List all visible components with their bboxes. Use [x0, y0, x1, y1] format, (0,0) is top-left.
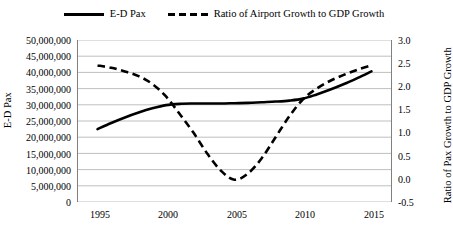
y-axis-left-tick: 15,000,000: [3, 150, 71, 160]
y-axis-right-tick: 0.5: [398, 152, 438, 162]
solid-line-icon: [64, 9, 104, 20]
y-axis-left-tick: 45,000,000: [3, 52, 71, 62]
x-axis-tick: 2015: [351, 210, 397, 220]
y-axis-left-tick: 30,000,000: [3, 101, 71, 111]
x-axis-tick: 2005: [214, 210, 260, 220]
chart-legend: E-D Pax Ratio of Airport Growth to GDP G…: [0, 4, 448, 24]
y-axis-left-tick: 40,000,000: [3, 68, 71, 78]
y-axis-right-tick: 1.0: [398, 128, 438, 138]
y-axis-right-tick: 0.0: [398, 175, 438, 185]
y-axis-right-tick: 3.0: [398, 36, 438, 46]
x-axis-tick: 1995: [77, 210, 123, 220]
y-axis-left-tick: 10,000,000: [3, 166, 71, 176]
y-axis-left-tick: 0: [3, 198, 71, 208]
legend-label-e-d-pax: E-D Pax: [110, 9, 146, 20]
y-axis-left-tick: 25,000,000: [3, 117, 71, 127]
y-axis-right-tick: 2.5: [398, 59, 438, 69]
chart-svg: [77, 40, 392, 202]
plot-area: [77, 40, 392, 202]
legend-label-ratio: Ratio of Airport Growth to GDP Growth: [214, 9, 385, 20]
dashed-line-icon: [168, 9, 208, 20]
x-axis-tick: 2010: [282, 210, 328, 220]
series-line-ratio: [98, 65, 372, 179]
y-axis-left-tick: 35,000,000: [3, 85, 71, 95]
y-axis-right-tick: 2.0: [398, 82, 438, 92]
legend-entry-ratio: Ratio of Airport Growth to GDP Growth: [168, 9, 385, 20]
y-axis-left-tick: 20,000,000: [3, 133, 71, 143]
x-axis-tick: 2000: [145, 210, 191, 220]
gridlines: [77, 40, 392, 202]
y-axis-right-title: Ratio of Pax Growth to GDP Growth: [443, 45, 453, 205]
y-axis-left-tick: 5,000,000: [3, 182, 71, 192]
legend-entry-e-d-pax: E-D Pax: [64, 9, 146, 20]
y-axis-right-tick: 1.5: [398, 105, 438, 115]
y-axis-right-tick: -0.5: [398, 198, 438, 208]
y-axis-left-tick: 50,000,000: [3, 36, 71, 46]
